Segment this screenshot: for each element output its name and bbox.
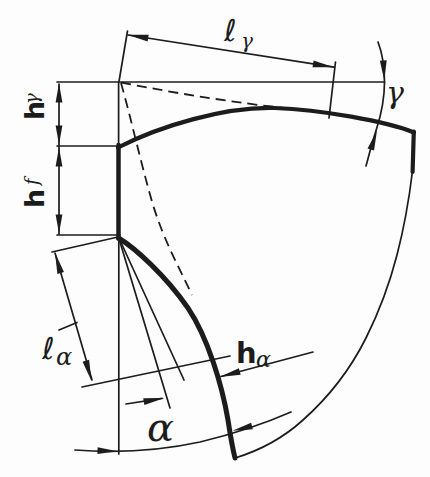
h-f-arrow-down — [56, 215, 63, 234]
thin-lines — [52, 31, 413, 458]
h-f-arrow-up — [56, 148, 63, 167]
h-f-subscript: f — [21, 175, 42, 187]
rake-face-curve — [118, 108, 414, 148]
labels: ℓ γ γ h γ h f ℓ α h α α — [19, 13, 404, 450]
h-f-label: h — [19, 189, 50, 208]
gamma-angle-label: γ — [386, 75, 404, 110]
l-alpha-label: ℓ — [41, 331, 54, 366]
alpha-angle-arc — [75, 412, 291, 451]
l-alpha-arrow-bottom — [83, 360, 92, 381]
apex-slant-line-1 — [119, 237, 171, 408]
l-gamma-label: ℓ — [223, 13, 236, 48]
diagram-svg: ℓ γ γ h γ h f ℓ α h α α — [0, 0, 430, 477]
l-gamma-subscript: γ — [241, 29, 253, 53]
l-gamma-extension-right — [329, 62, 336, 118]
tooth-profile-diagram: ℓ γ γ h γ h f ℓ α h α α — [0, 0, 430, 477]
l-alpha-subscript: α — [56, 343, 72, 371]
h-alpha-label: h — [236, 336, 257, 370]
rake-tangent-dashed-line — [121, 83, 289, 109]
alpha-arc-arrow-left — [97, 447, 117, 454]
h-alpha-subscript: α — [256, 347, 271, 372]
h-gamma-arrow-up — [56, 84, 63, 103]
l-gamma-extension-left — [119, 31, 128, 82]
gamma-arc-arrow-bottom — [368, 131, 377, 151]
profile-dashed-curve — [121, 83, 192, 295]
relief-face-curve — [119, 238, 236, 458]
right-edge-line — [413, 132, 414, 173]
alpha-angle-label: α — [147, 404, 174, 450]
tooth-back-arc — [235, 171, 413, 458]
l-alpha-extension-top — [52, 237, 118, 252]
alpha-arc-arrow-right — [233, 423, 253, 431]
h-gamma-subscript: γ — [21, 93, 42, 104]
l-alpha-leader-line — [59, 323, 77, 331]
l-gamma-arrow-left — [127, 35, 148, 42]
l-alpha-arrow-top — [55, 253, 64, 274]
h-gamma-arrow-down — [56, 126, 63, 145]
l-gamma-arrow-right — [313, 61, 334, 68]
